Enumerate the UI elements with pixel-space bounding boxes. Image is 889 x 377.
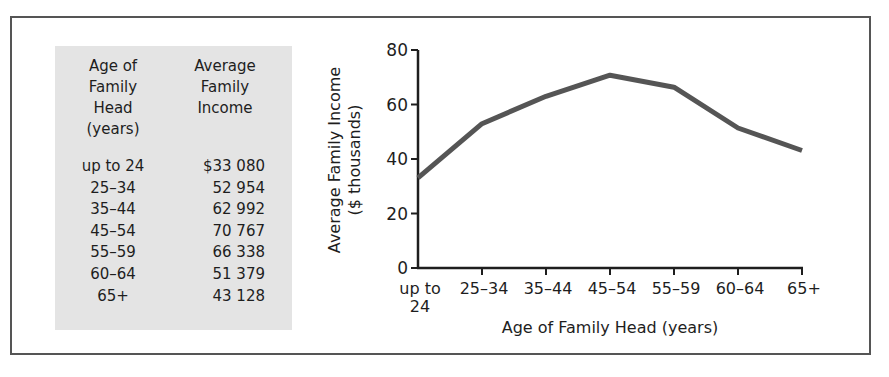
y-tick-label: 60: [386, 95, 408, 115]
x-tick-label: 65+: [787, 279, 821, 298]
y-axis-label-line: Average Family Income: [325, 67, 344, 253]
x-axis-label: Age of Family Head (years): [502, 318, 719, 337]
y-axis-label: Average Family Income($ thousands): [325, 67, 364, 253]
x-tick-label: 24: [410, 297, 430, 316]
y-tick-label: 20: [386, 204, 408, 224]
income-line-series: [418, 75, 802, 178]
x-tick-label: 25–34: [460, 279, 509, 298]
y-axis-ticks: 020406080: [386, 40, 418, 278]
line-chart: Average Family Income($ thousands) 02040…: [0, 0, 889, 377]
y-axis-label-line: ($ thousands): [345, 105, 364, 216]
chart-axes: [417, 50, 803, 269]
x-tick-label: 60–64: [716, 279, 765, 298]
y-tick-label: 0: [397, 258, 408, 278]
x-tick-label: up to: [399, 279, 440, 298]
x-tick-label: 45–54: [588, 279, 637, 298]
x-axis-ticks: up to2425–3435–4445–5455–5960–6465+: [399, 268, 821, 316]
y-tick-label: 40: [386, 149, 408, 169]
x-tick-label: 35–44: [524, 279, 573, 298]
x-tick-label: 55–59: [652, 279, 701, 298]
y-tick-label: 80: [386, 40, 408, 60]
